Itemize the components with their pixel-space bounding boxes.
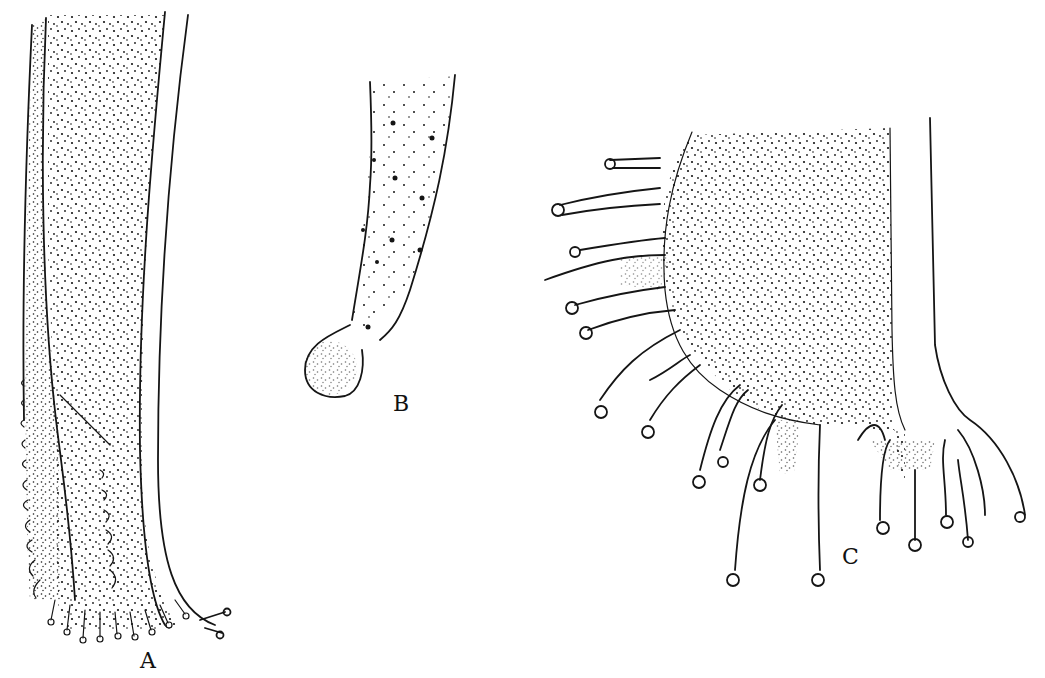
figure-drawings — [0, 0, 1045, 678]
figure-plate: A B C — [0, 0, 1045, 678]
panel-b-drawing — [303, 75, 455, 397]
panel-label-c: C — [842, 546, 859, 568]
panel-label-b: B — [393, 393, 409, 415]
panel-a-drawing — [21, 12, 231, 643]
panel-label-a: A — [140, 650, 156, 672]
panel-c-drawing — [545, 118, 1025, 586]
